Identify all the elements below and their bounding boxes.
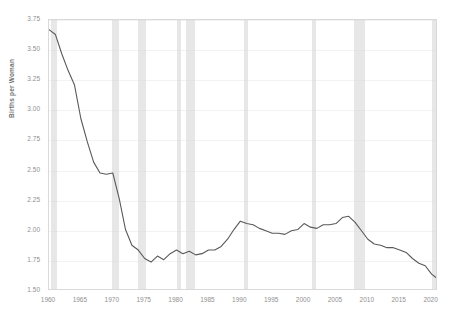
x-axis-tick-label: 2020 (411, 296, 451, 304)
y-axis-tick-label: 2.50 (0, 166, 40, 173)
y-axis-tick-label: 3.25 (0, 75, 40, 82)
y-axis-tick-label: 3.00 (0, 105, 40, 112)
y-axis-tick-label: 2.75 (0, 135, 40, 142)
y-axis-tick-label: 1.75 (0, 256, 40, 263)
y-axis-tick-label: 3.75 (0, 15, 40, 22)
y-axis-tick-label: 2.25 (0, 196, 40, 203)
plot-area (48, 19, 437, 290)
y-axis-tick-label: 2.00 (0, 226, 40, 233)
y-axis-tick-label: 3.50 (0, 45, 40, 52)
series-line (49, 20, 437, 290)
y-axis-tick-label: 1.50 (0, 286, 40, 293)
fertility-rate-line-chart: Births per Woman 1.501.752.002.252.502.7… (0, 0, 466, 328)
